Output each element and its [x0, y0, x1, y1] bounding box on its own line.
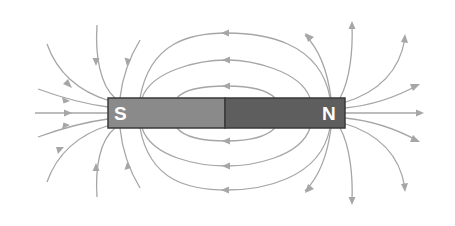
- arrow-icon: [222, 57, 230, 64]
- field-line: [97, 25, 115, 98]
- arrow-icon: [56, 147, 64, 154]
- field-line: [177, 86, 275, 98]
- south-pole-label: S: [114, 103, 127, 124]
- field-line: [38, 119, 108, 137]
- field-line: [345, 85, 418, 108]
- magnetic-field-diagram: S N: [0, 0, 455, 226]
- arrow-icon: [410, 135, 420, 142]
- field-line: [120, 40, 140, 98]
- inner-loops-top: [140, 30, 330, 99]
- arrow-icon: [349, 197, 356, 205]
- inner-loops-bottom: [140, 128, 330, 194]
- field-line: [340, 25, 352, 98]
- field-line: [38, 89, 108, 107]
- arrow-icon: [416, 110, 424, 117]
- arrow-icon: [305, 184, 314, 193]
- field-line: [340, 128, 352, 201]
- field-line: [177, 128, 275, 141]
- field-line: [97, 128, 115, 197]
- arrow-icon: [64, 110, 72, 117]
- arrow-icon: [222, 163, 230, 170]
- field-line: [305, 35, 331, 98]
- arrow-icon: [305, 33, 314, 42]
- north-pole-label: N: [322, 103, 336, 124]
- field-line: [345, 118, 418, 141]
- field-line: [142, 60, 310, 98]
- arrow-icon: [349, 21, 356, 29]
- arrow-icon: [221, 187, 229, 194]
- bar-magnet: S N: [108, 98, 345, 128]
- arrow-icon: [410, 84, 420, 91]
- arrow-icon: [401, 34, 408, 43]
- field-line: [142, 128, 310, 166]
- arrow-icon: [401, 183, 408, 192]
- field-line: [140, 33, 330, 98]
- arrow-icon: [222, 138, 230, 145]
- field-line: [140, 128, 330, 190]
- arrow-icon: [221, 30, 229, 37]
- arrow-icon: [222, 83, 230, 90]
- field-line: [120, 128, 140, 188]
